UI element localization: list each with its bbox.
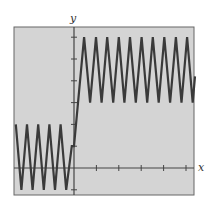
chart-svg: y x (0, 0, 213, 204)
x-axis-label: x (198, 161, 205, 174)
y-axis-label: y (69, 12, 77, 25)
